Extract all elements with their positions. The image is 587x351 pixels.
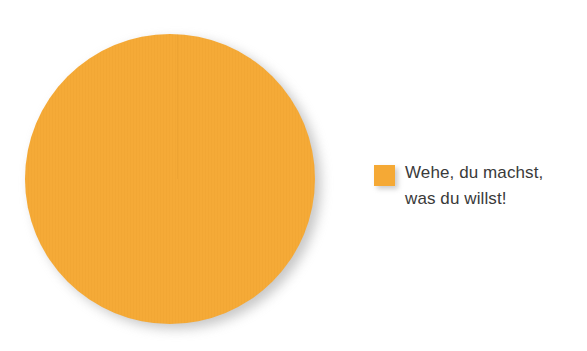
pie-slice-boundary (177, 34, 178, 179)
chart-legend: Wehe, du machst, was du willst! (374, 160, 543, 212)
pie-paper-texture (25, 34, 315, 324)
legend-item[interactable]: Wehe, du machst, was du willst! (374, 160, 543, 212)
pie-slice-wehe-du-machst-was-du-willst[interactable] (25, 34, 315, 324)
legend-item-label: Wehe, du machst, was du willst! (405, 160, 543, 212)
legend-color-swatch-icon (374, 165, 395, 186)
pie-chart-plot-area (25, 34, 315, 324)
pie-chart-figure: Wehe, du machst, was du willst! (0, 0, 587, 351)
legend-swatch-wrapper (374, 165, 395, 186)
